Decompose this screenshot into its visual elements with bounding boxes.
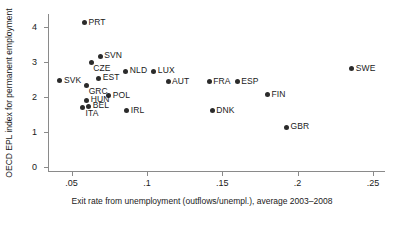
data-point-label: POL <box>113 91 130 100</box>
data-point-marker <box>96 76 101 81</box>
x-axis-tick-label: .05 <box>65 178 78 188</box>
data-point-label: GBR <box>290 122 309 131</box>
data-point-label: SVK <box>64 76 81 85</box>
data-point-label: EST <box>103 73 120 82</box>
x-axis-tick-label: .2 <box>294 178 302 188</box>
y-axis-tick-label: 3 <box>32 57 37 67</box>
data-point-marker <box>84 98 89 103</box>
data-point-label: FIN <box>271 90 285 99</box>
data-point-label: PRT <box>88 18 105 27</box>
y-axis-title-text: OECD EPL index for permanent employment <box>4 8 14 177</box>
data-point-label: LUX <box>158 66 175 75</box>
x-axis-tick-label: .25 <box>367 178 380 188</box>
y-axis-tick: 0 <box>44 167 49 168</box>
y-axis-tick-label: 4 <box>32 22 37 32</box>
data-point-label: FRA <box>213 77 230 86</box>
x-axis-tick-label: .15 <box>216 178 229 188</box>
x-axis-tick <box>147 171 148 176</box>
scatter-plot-figure: OECD EPL index for permanent employment … <box>0 0 404 246</box>
data-point-label: SWE <box>356 64 376 73</box>
x-axis-title: Exit rate from unemployment (outflows/un… <box>0 196 404 206</box>
data-point-marker <box>123 69 128 74</box>
data-point-marker <box>210 108 215 113</box>
data-point-marker <box>166 79 171 84</box>
data-point-marker <box>98 54 103 59</box>
data-point-label: SVN <box>104 51 122 60</box>
data-point-marker <box>349 66 354 71</box>
data-point-marker <box>151 69 156 74</box>
y-axis-title: OECD EPL index for permanent employment <box>2 14 16 172</box>
y-axis-tick-label: 1 <box>32 127 37 137</box>
data-point-marker <box>207 79 212 84</box>
data-point-marker <box>265 92 270 97</box>
data-point-label: IRL <box>131 106 145 115</box>
y-axis-tick-label: 0 <box>32 162 37 172</box>
y-axis-tick: 4 <box>44 27 49 28</box>
data-point-marker <box>80 105 85 110</box>
data-point-label: NLD <box>130 66 147 75</box>
x-axis-tick <box>72 171 73 176</box>
data-point-marker <box>284 125 289 130</box>
data-point-label: AUT <box>172 77 189 86</box>
x-axis-tick <box>298 171 299 176</box>
data-point-label: CZE <box>93 64 110 73</box>
data-point-marker <box>235 79 240 84</box>
y-axis-tick: 2 <box>44 97 49 98</box>
data-point-marker <box>57 78 62 83</box>
data-point-label: ESP <box>241 77 258 86</box>
plot-area: 01234.05.1.15.2.25PRTSVNCZENLDLUXSVKESTA… <box>48 14 385 172</box>
data-point-label: DNK <box>216 106 234 115</box>
y-axis-tick: 3 <box>44 62 49 63</box>
x-axis-tick <box>222 171 223 176</box>
data-point-label: ITA <box>86 109 99 118</box>
data-point-marker <box>124 108 129 113</box>
data-point-marker <box>82 20 87 25</box>
x-axis-tick <box>373 171 374 176</box>
y-axis-tick-label: 2 <box>32 92 37 102</box>
y-axis-tick: 1 <box>44 132 49 133</box>
x-axis-tick-label: .1 <box>143 178 151 188</box>
